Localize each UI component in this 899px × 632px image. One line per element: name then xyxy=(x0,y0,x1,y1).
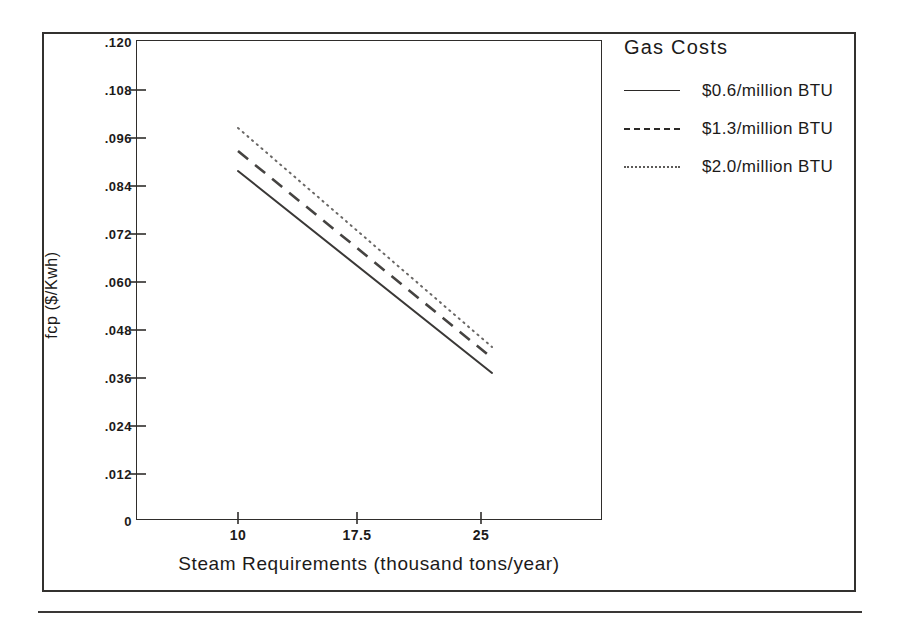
y-tick-label: .096 xyxy=(72,131,132,146)
legend-item-1: $1.3/million BTU xyxy=(618,119,880,157)
y-tick-label: .048 xyxy=(72,323,132,338)
y-axis-tick-labels: .120 .108 .096 .084 .072 .060 .048 .036 … xyxy=(66,0,132,632)
y-axis-title: fcp ($/Kwh) xyxy=(43,195,61,395)
y-tick-label: .024 xyxy=(72,419,132,434)
plot-area xyxy=(136,40,602,520)
legend-line-sample-dotted xyxy=(624,166,680,171)
y-tick-label: .108 xyxy=(72,83,132,98)
legend-item-2: $2.0/million BTU xyxy=(618,157,880,195)
y-tick-label: .060 xyxy=(72,275,132,290)
figure-page: .120 .108 .096 .084 .072 .060 .048 .036 … xyxy=(0,0,899,632)
legend: Gas Costs $0.6/million BTU $1.3/million … xyxy=(618,36,880,195)
x-tick-label: 10 xyxy=(230,527,247,543)
y-tick-label: .120 xyxy=(72,35,132,50)
legend-label: $2.0/million BTU xyxy=(702,157,833,177)
legend-line-sample-solid xyxy=(624,90,680,94)
page-separator-rule xyxy=(38,611,862,613)
y-tick-label: 0 xyxy=(72,514,132,529)
x-tick-label: 17.5 xyxy=(342,527,371,543)
y-tick-label: .036 xyxy=(72,371,132,386)
legend-label: $1.3/million BTU xyxy=(702,119,833,139)
legend-line-sample-dashed xyxy=(624,128,680,133)
legend-label: $0.6/million BTU xyxy=(702,81,833,101)
y-tick-label: .072 xyxy=(72,227,132,242)
x-tick-label: 25 xyxy=(473,527,490,543)
y-tick-label: .012 xyxy=(72,467,132,482)
legend-item-0: $0.6/million BTU xyxy=(618,81,880,119)
y-tick-label: .084 xyxy=(72,179,132,194)
x-axis-title: Steam Requirements (thousand tons/year) xyxy=(136,553,602,575)
legend-title: Gas Costs xyxy=(624,36,880,59)
